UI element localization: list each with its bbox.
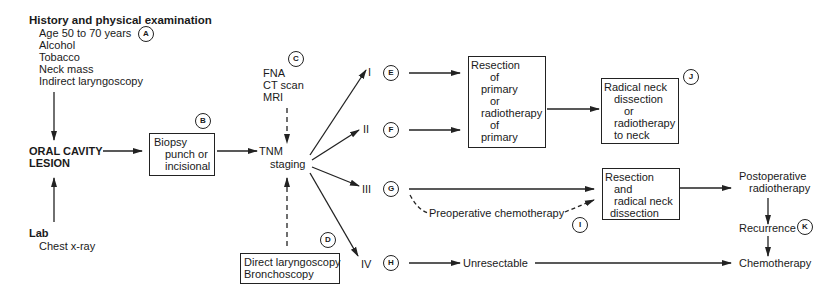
lab-title: Lab	[29, 227, 49, 240]
resection-primary-line: primary	[481, 131, 518, 144]
marker-i: I	[572, 217, 588, 233]
biopsy-line: incisional	[165, 160, 210, 173]
marker-h: H	[383, 255, 399, 271]
history-item: Indirect laryngoscopy	[39, 75, 143, 88]
neck-treatment-line: dissection	[614, 93, 663, 106]
stage-label-iii: III	[362, 183, 371, 196]
marker-b: B	[195, 113, 211, 129]
stage-label-ii: II	[363, 123, 369, 136]
preop-chemo-label: Preoperative chemotherapy	[429, 207, 564, 220]
stage-label-iv: IV	[361, 258, 371, 271]
history-title: History and physical examination	[29, 14, 212, 27]
marker-e: E	[383, 65, 399, 81]
neck-treatment-box: Radical neck dissection or radiotherapy …	[601, 78, 679, 144]
chemotherapy-label: Chemotherapy	[739, 257, 811, 270]
marker-g: G	[383, 181, 399, 197]
lesion-label-line2: LESION	[29, 157, 70, 170]
unresectable-label: Unresectable	[463, 257, 528, 270]
postop-line2: radiotherapy	[749, 182, 810, 195]
recurrence-label: Recurrence	[739, 222, 796, 235]
lab-item: Chest x-ray	[39, 240, 95, 253]
endoscopy-line: Bronchoscopy	[244, 268, 314, 281]
marker-f: F	[383, 122, 399, 138]
resection-neck-box: Resection and radical neck dissection	[602, 168, 680, 220]
marker-c: C	[288, 51, 304, 67]
marker-d: D	[320, 232, 336, 248]
imaging-item: MRI	[263, 91, 283, 104]
staging-line2: staging	[270, 158, 305, 171]
marker-j: J	[683, 69, 699, 85]
stage-label-i: I	[368, 66, 371, 79]
resection-primary-box: Resection of primary or radiotherapy of …	[468, 56, 546, 148]
staging-line1: TNM	[259, 145, 283, 158]
neck-treatment-line: to neck	[614, 129, 649, 142]
endoscopy-box: Direct laryngoscopy Bronchoscopy	[240, 253, 340, 284]
marker-a: A	[138, 26, 154, 42]
marker-k: K	[797, 219, 813, 235]
connector-arrows	[0, 0, 835, 298]
biopsy-box: Biopsy punch or incisional	[149, 133, 215, 176]
resection-neck-line: dissection	[610, 207, 659, 220]
